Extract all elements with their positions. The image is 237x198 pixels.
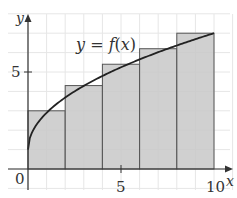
riemann-bar-1	[28, 111, 65, 169]
riemann-bar-2	[65, 86, 102, 169]
y-axis-label: y	[15, 10, 25, 26]
riemann-bar-3	[102, 64, 139, 169]
y-axis-arrow-icon	[25, 14, 32, 22]
y-tick-label-5: 5	[11, 63, 21, 81]
x-tick-label-10: 10	[206, 178, 225, 196]
riemann-bar-4	[140, 49, 177, 169]
riemann-sum-chart: y x 0 5 10 5 y = f(x)	[0, 0, 237, 198]
x-axis-label: x	[226, 173, 234, 189]
x-tick-label-5: 5	[116, 178, 126, 196]
curve-label: y = f(x)	[75, 35, 136, 54]
origin-label: 0	[15, 170, 25, 188]
riemann-bar-5	[177, 33, 214, 169]
x-axis-arrow-icon	[225, 166, 233, 173]
